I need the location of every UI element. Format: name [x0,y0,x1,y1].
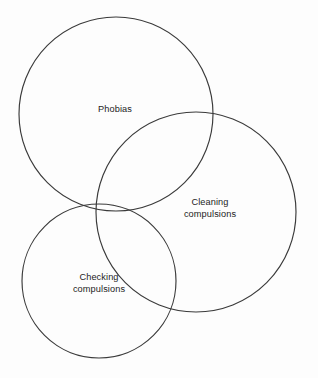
venn-label-cleaning-compulsions: Cleaning compulsions [184,197,236,220]
venn-label-phobias: Phobias [98,104,132,116]
venn-diagram: Phobias Cleaning compulsions Checking co… [0,0,318,378]
venn-label-checking-compulsions-line-2: compulsions [73,283,125,295]
venn-diagram-canvas [0,0,318,378]
venn-label-cleaning-compulsions-line-1: Cleaning [184,197,236,209]
venn-label-checking-compulsions-line-1: Checking [73,272,125,284]
venn-label-checking-compulsions: Checking compulsions [73,272,125,295]
venn-label-cleaning-compulsions-line-2: compulsions [184,208,236,220]
venn-label-phobias-line-1: Phobias [98,104,132,116]
